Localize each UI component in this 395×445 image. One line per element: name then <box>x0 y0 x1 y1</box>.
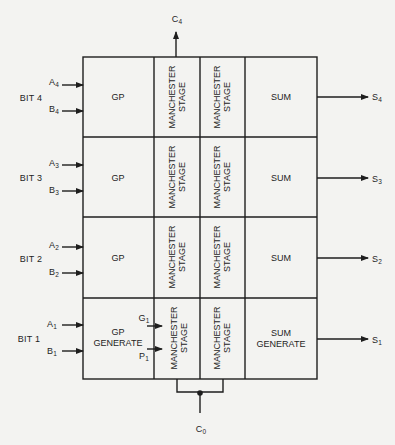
carry-out-label: C4 <box>172 15 183 26</box>
sum-output-label: S1 <box>372 336 382 347</box>
input-a-label: A2 <box>49 241 59 252</box>
input-a-label: A1 <box>47 320 57 331</box>
sum-output-label: S3 <box>372 175 382 186</box>
gp-cell: GP <box>111 92 124 103</box>
bit-label: BIT 4 <box>20 94 42 103</box>
gp-cell: GP <box>111 253 124 264</box>
sum-output-label: S2 <box>372 255 382 266</box>
diagram-lines <box>0 0 395 445</box>
sum-output-label: S4 <box>372 93 382 104</box>
sum-cell: SUM <box>271 173 291 184</box>
input-b-label: B2 <box>49 268 59 279</box>
carry-in-junction-dot <box>197 390 203 396</box>
sum-cell: SUM <box>271 253 291 264</box>
manchester-stage-cell: MANCHESTERSTAGE <box>167 225 187 288</box>
manchester-stage-cell: MANCHESTERSTAGE <box>212 225 232 288</box>
sum-cell: SUM <box>271 92 291 103</box>
carry-in-label: C0 <box>196 425 207 436</box>
input-a-label: A4 <box>49 78 59 89</box>
input-b-label: B1 <box>47 347 57 358</box>
manchester-stage-cell: MANCHESTERSTAGE <box>167 65 187 128</box>
manchester-stage-cell: MANCHESTERSTAGE <box>212 145 232 208</box>
input-b-label: B3 <box>49 186 59 197</box>
manchester-stage-cell: MANCHESTERSTAGE <box>212 306 232 369</box>
bit-label: BIT 1 <box>18 335 40 344</box>
gp-cell: GP <box>111 173 124 184</box>
input-b-label: B4 <box>49 105 59 116</box>
g-signal-label: G1 <box>138 314 149 325</box>
bit-label: BIT 2 <box>20 255 42 264</box>
input-a-label: A3 <box>49 159 59 170</box>
gp-generate-cell: GPGENERATE <box>94 327 143 349</box>
manchester-stage-cell: MANCHESTERSTAGE <box>169 306 189 369</box>
manchester-stage-cell: MANCHESTERSTAGE <box>167 145 187 208</box>
sum-generate-cell: SUMGENERATE <box>257 328 306 350</box>
manchester-stage-cell: MANCHESTERSTAGE <box>212 65 232 128</box>
p-signal-label: P1 <box>139 352 149 363</box>
bit-label: BIT 3 <box>20 174 42 183</box>
